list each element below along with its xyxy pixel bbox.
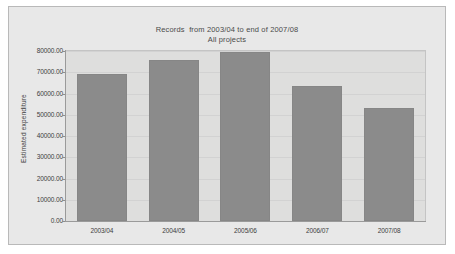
- x-axis-labels: 2003/042004/052005/062006/072007/08: [66, 227, 425, 234]
- bar: [292, 86, 342, 221]
- y-axis-ticks: 80000.0070000.0060000.0050000.0040000.00…: [9, 7, 63, 246]
- x-tick-label: 2003/04: [66, 227, 138, 234]
- chart-title-block: Records from 2003/04 to end of 2007/08 A…: [9, 25, 445, 45]
- chart-card: Records from 2003/04 to end of 2007/08 A…: [8, 6, 446, 245]
- y-tick-mark: [62, 200, 65, 201]
- y-tick-mark: [62, 136, 65, 137]
- y-tick-mark: [62, 115, 65, 116]
- chart-subtitle: All projects: [9, 35, 445, 45]
- x-axis-line: [65, 221, 426, 222]
- bar: [220, 52, 270, 221]
- x-tick-label: 2006/07: [281, 227, 353, 234]
- bar-series: [66, 51, 425, 221]
- y-tick-mark: [62, 157, 65, 158]
- y-tick-mark: [62, 94, 65, 95]
- y-tick-label: 80000.00: [11, 47, 63, 54]
- x-tick-label: 2004/05: [138, 227, 210, 234]
- y-axis-line: [65, 50, 66, 222]
- y-tick-mark: [62, 179, 65, 180]
- y-tick-label: 0.00: [11, 217, 63, 224]
- y-axis-title: Estimated expenditure: [20, 69, 27, 189]
- y-tick-mark: [62, 51, 65, 52]
- y-tick-mark: [62, 72, 65, 73]
- y-tick-mark: [62, 221, 65, 222]
- bar: [364, 108, 414, 221]
- x-tick-label: 2005/06: [210, 227, 282, 234]
- y-tick-label: 10000.00: [11, 196, 63, 203]
- chart-title: Records from 2003/04 to end of 2007/08: [9, 25, 445, 35]
- bar: [149, 60, 199, 222]
- x-tick-label: 2007/08: [353, 227, 425, 234]
- bar: [77, 74, 127, 221]
